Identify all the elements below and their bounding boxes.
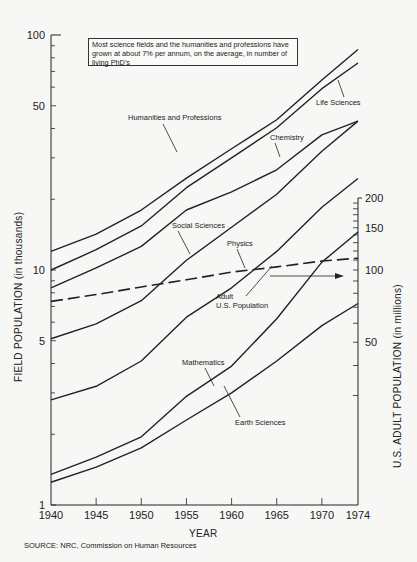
y-tick-label: 5 — [39, 335, 45, 347]
arrow-earth-sciences — [224, 386, 240, 417]
arrow-adult-population — [246, 266, 272, 296]
chart: 1510501001940194519501955196019651970197… — [0, 0, 417, 562]
label-physics: Physics — [227, 239, 253, 248]
arrow-physics — [237, 249, 245, 268]
label-adult-population-1: Adult — [216, 292, 234, 301]
x-tick-label: 1945 — [84, 509, 108, 521]
arrow-social-sciences — [178, 231, 190, 254]
series-labels: Humanities and Professions Life Sciences… — [128, 80, 361, 427]
x-tick-label: 1960 — [219, 509, 243, 521]
y2-axis-title: U.S. ADULT POPULATION (in millions) — [392, 284, 403, 468]
annotation-box: Most science fields and the humanities a… — [88, 38, 298, 66]
x-tick-label: 1940 — [39, 509, 63, 521]
arrow-life-sciences — [338, 80, 344, 97]
y-tick-label: 10 — [33, 264, 45, 276]
x-tick-label: 1965 — [264, 509, 288, 521]
label-earth-sciences: Earth Sciences — [235, 418, 286, 427]
x-tick-label: 1950 — [129, 509, 153, 521]
arrow-chemistry — [275, 143, 280, 157]
label-social-sciences: Social Sciences — [172, 221, 225, 230]
y2-tick-label: 100 — [365, 264, 383, 276]
x-tick-label: 1974 — [346, 509, 370, 521]
y2-tick-label: 50 — [365, 336, 377, 348]
label-adult-population-2: U.S. Population — [216, 301, 268, 310]
arrowhead-right — [335, 273, 344, 279]
label-life-sciences: Life Sciences — [316, 98, 361, 107]
y2-tick-label: 150 — [365, 222, 383, 234]
series-earth-sciences — [51, 304, 358, 483]
label-humanities: Humanities and Professions — [128, 113, 222, 122]
y-tick-label: 50 — [33, 100, 45, 112]
y-tick-label: 100 — [27, 29, 45, 41]
annotation-text: Most science fields and the humanities a… — [92, 40, 289, 67]
y2-tick-label: 200 — [365, 192, 383, 204]
series-mathematics — [51, 232, 358, 474]
x-tick-label: 1955 — [174, 509, 198, 521]
source-note: SOURCE: NRC, Commission on Human Resourc… — [24, 541, 197, 550]
x-tick-label: 1970 — [310, 509, 334, 521]
label-chemistry: Chemistry — [270, 133, 304, 142]
label-mathematics: Mathematics — [182, 358, 225, 367]
x-axis-title: YEAR — [189, 528, 217, 539]
series-adult-u-s-population — [51, 258, 358, 301]
y-axis-title: FIELD POPULATION (in thousands) — [13, 212, 24, 382]
arrow-humanities — [163, 124, 177, 152]
